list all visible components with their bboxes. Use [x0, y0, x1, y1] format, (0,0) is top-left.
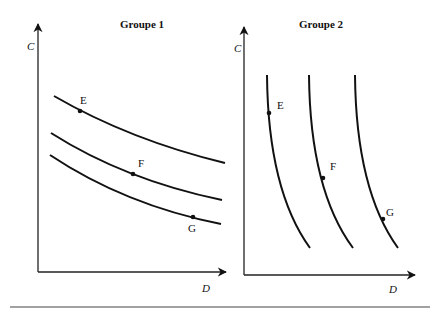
y-axis-label: C: [234, 42, 242, 54]
curve-2: [51, 133, 222, 200]
point-label-f: F: [138, 157, 144, 169]
point-label-g: G: [386, 206, 394, 218]
curve-1: [54, 96, 225, 163]
x-axis-label: D: [201, 282, 210, 294]
panel-groupe-2: Groupe 2 C D E F G: [234, 18, 415, 295]
point-g: [381, 217, 386, 222]
point-label-e: E: [277, 99, 284, 111]
panel-title: Groupe 1: [120, 18, 164, 30]
point-label-g: G: [188, 222, 196, 234]
curve-3: [50, 155, 221, 224]
point-g: [191, 215, 196, 220]
point-label-e: E: [80, 94, 87, 106]
y-axis-label: C: [27, 40, 35, 52]
point-f: [131, 172, 136, 177]
panel-title: Groupe 2: [299, 18, 344, 30]
point-e: [78, 109, 83, 114]
panel-groupe-1: Groupe 1 C D E F G: [27, 18, 226, 294]
point-e: [267, 111, 272, 116]
curve-3: [355, 75, 398, 248]
x-axis-label: D: [388, 283, 397, 295]
diagram: Groupe 1 C D E F G Groupe 2 C D E F G: [0, 0, 439, 311]
point-f: [321, 176, 326, 181]
curve-1: [267, 75, 310, 248]
point-label-f: F: [330, 160, 336, 172]
